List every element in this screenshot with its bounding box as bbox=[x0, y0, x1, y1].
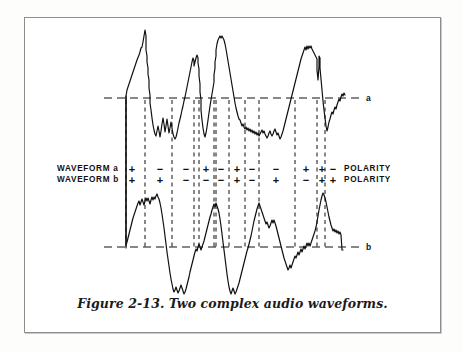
polarity-sign: + bbox=[234, 175, 240, 186]
waveform-trace bbox=[126, 96, 343, 294]
figure-page: WAVEFORM a WAVEFORM b POLARITY POLARITY … bbox=[0, 0, 463, 353]
polarity-sign: − bbox=[303, 175, 309, 186]
polarity-b-label: POLARITY bbox=[344, 175, 391, 184]
polarity-sign: − bbox=[249, 175, 255, 186]
waveform-a-label: WAVEFORM a bbox=[57, 164, 118, 173]
axis-label-a: a bbox=[366, 93, 371, 103]
figure-caption: Figure 2-13. Two complex audio waveforms… bbox=[24, 296, 441, 311]
polarity-sign: + bbox=[157, 175, 163, 186]
axis-label-b: b bbox=[366, 242, 371, 252]
waveform-b-label: WAVEFORM b bbox=[57, 175, 118, 184]
polarity-sign: + bbox=[319, 175, 325, 186]
polarity-sign: − bbox=[218, 175, 224, 186]
polarity-a-label: POLARITY bbox=[344, 164, 391, 173]
waveform-a-suffix: a bbox=[113, 164, 118, 173]
polarity-sign: − bbox=[183, 175, 189, 186]
polarity-sign: + bbox=[129, 175, 135, 186]
waveform-b-suffix: b bbox=[113, 175, 118, 184]
polarity-sign: + bbox=[273, 175, 279, 186]
polarity-sign: + bbox=[330, 175, 336, 186]
waveform-trace bbox=[126, 30, 345, 248]
polarity-sign: − bbox=[203, 175, 209, 186]
